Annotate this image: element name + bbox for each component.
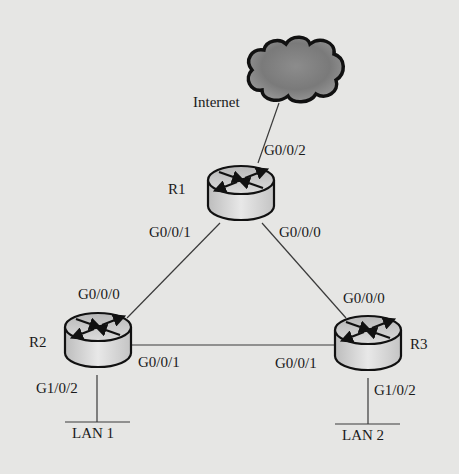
router-r1-label: R1 [168, 182, 186, 197]
router-r1-icon [208, 166, 274, 220]
r2-g000-label: G0/0/0 [78, 287, 120, 302]
r1-g001-label: G0/0/1 [149, 225, 191, 240]
router-r3-icon [335, 316, 401, 370]
lan2-label: LAN 2 [342, 428, 384, 443]
lan1-label: LAN 1 [72, 426, 114, 441]
r3-g000-label: G0/0/0 [343, 291, 385, 306]
r2-g001-label: G0/0/1 [138, 355, 180, 370]
r1-g002-label: G0/0/2 [264, 143, 306, 158]
r2-g102-label: G1/0/2 [36, 381, 78, 396]
router-r2-label: R2 [29, 335, 47, 350]
r3-g102-label: G1/0/2 [374, 383, 416, 398]
network-diagram [0, 0, 459, 474]
internet-cloud-icon [248, 37, 343, 102]
router-r3-label: R3 [410, 337, 428, 352]
links [65, 103, 400, 424]
r1-g000-label: G0/0/0 [279, 225, 321, 240]
router-r2-icon [65, 313, 131, 367]
r3-g001-label: G0/0/1 [275, 356, 317, 371]
internet-label: Internet [193, 95, 240, 110]
